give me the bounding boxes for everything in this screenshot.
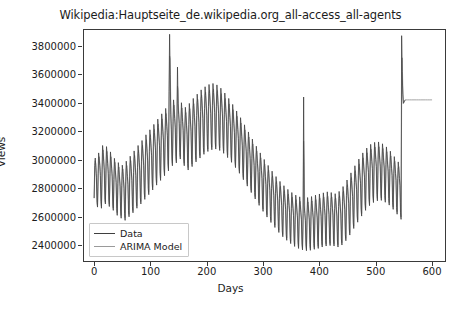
legend-label-arima-model: ARIMA Model	[120, 240, 182, 253]
series-line-arima-model	[94, 56, 432, 249]
x-axis-tick-mark	[207, 262, 208, 266]
x-axis-tick-label: 0	[91, 266, 97, 277]
x-axis-tick-label: 200	[197, 266, 216, 277]
y-axis-tick-mark	[78, 103, 82, 104]
y-axis-tick-mark	[78, 131, 82, 132]
x-axis-tick-mark	[376, 262, 377, 266]
y-axis-tick-label: 2800000	[31, 183, 76, 194]
x-axis-tick-label: 600	[422, 266, 441, 277]
y-axis-tick-label: 3600000	[31, 69, 76, 80]
chart-legend: Data ARIMA Model	[89, 223, 189, 257]
x-axis-tick-label: 500	[366, 266, 385, 277]
y-axis-tick-label: 2600000	[31, 211, 76, 222]
y-axis-tick-label: 3200000	[31, 126, 76, 137]
x-axis-tick-mark	[319, 262, 320, 266]
legend-item-data: Data	[94, 227, 182, 240]
y-axis-tick-mark	[78, 160, 82, 161]
legend-item-arima-model: ARIMA Model	[94, 240, 182, 253]
y-axis-tick-mark	[78, 188, 82, 189]
legend-swatch-arima-model	[94, 246, 115, 247]
x-axis-tick-mark	[432, 262, 433, 266]
y-axis-tick-labels: 2400000260000028000003000000320000034000…	[0, 0, 76, 324]
x-axis-tick-mark	[263, 262, 264, 266]
legend-swatch-data	[94, 233, 115, 234]
y-axis-tick-label: 3400000	[31, 97, 76, 108]
y-axis-tick-label: 2400000	[31, 240, 76, 251]
x-axis-tick-label: 300	[254, 266, 273, 277]
y-axis-tick-mark	[78, 46, 82, 47]
legend-label-data: Data	[120, 227, 143, 240]
y-axis-tick-label: 3000000	[31, 154, 76, 165]
y-axis-tick-mark	[78, 74, 82, 75]
chart-figure: Wikipedia:Hauptseite_de.wikipedia.org_al…	[0, 0, 461, 324]
x-axis-tick-label: 400	[310, 266, 329, 277]
y-axis-tick-mark	[78, 217, 82, 218]
x-axis-tick-label: 100	[141, 266, 160, 277]
x-axis-tick-mark	[94, 262, 95, 266]
y-axis-tick-mark	[78, 245, 82, 246]
y-axis-tick-label: 3800000	[31, 40, 76, 51]
x-axis-tick-mark	[150, 262, 151, 266]
